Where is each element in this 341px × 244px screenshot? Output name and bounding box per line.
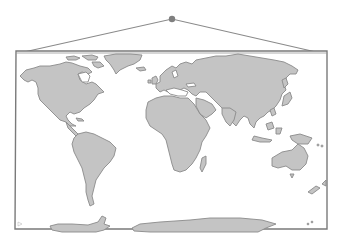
british-isles [152, 76, 158, 84]
black-sea [186, 83, 196, 87]
nail-icon [169, 16, 175, 22]
hanging-string [24, 19, 316, 52]
hanging-world-map-illustration [0, 0, 341, 244]
